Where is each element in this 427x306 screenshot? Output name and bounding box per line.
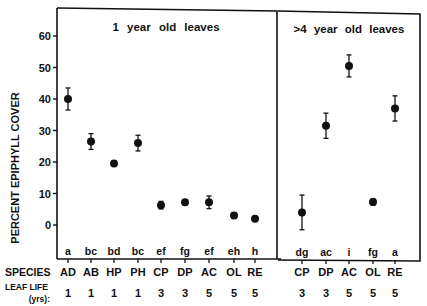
significance-letter: a (65, 245, 71, 257)
leaf-life-value: 5 (392, 287, 398, 299)
data-point (87, 134, 95, 150)
data-point (157, 201, 165, 209)
leaf-life-value: 3 (299, 287, 305, 299)
y-tick-label: 20 (39, 156, 51, 168)
leaf-life-value: 5 (252, 287, 258, 299)
significance-letter: fg (180, 245, 190, 257)
leaf-life-value: 3 (158, 287, 164, 299)
leaf-life-value: 5 (346, 287, 352, 299)
data-point (322, 113, 330, 138)
species-label: DP (318, 266, 333, 278)
data-point (251, 215, 259, 223)
species-label: RE (247, 266, 262, 278)
species-label: RE (387, 266, 402, 278)
leaf-life-value: 1 (111, 287, 117, 299)
species-label: OL (365, 266, 381, 278)
leaf-life-value: 1 (135, 287, 141, 299)
significance-letter: h (252, 245, 258, 257)
data-point (134, 135, 142, 151)
leaf-life-value: 3 (182, 287, 188, 299)
y-tick-label: 10 (39, 188, 51, 200)
significance-letter: bc (85, 245, 97, 257)
significance-letter: ac (320, 246, 332, 258)
significance-letter: bc (132, 245, 144, 257)
significance-letter: a (392, 246, 398, 258)
plot-frame (57, 8, 420, 261)
y-tick-label: 50 (39, 62, 51, 74)
leaf-life-value: 5 (231, 287, 237, 299)
right-panel-border (278, 11, 420, 261)
data-point (391, 96, 399, 121)
significance-letter: eh (228, 245, 240, 257)
panel-title-4-year: >4 year old leaves (294, 23, 405, 35)
species-label: DP (177, 266, 192, 278)
species-label: OL (226, 266, 242, 278)
y-tick-label: 60 (39, 30, 51, 42)
data-point (345, 55, 353, 77)
y-axis-label: PERCENT EPIPHYLL COVER (9, 92, 21, 243)
data-point (64, 88, 72, 110)
significance-letter: fg (368, 246, 378, 258)
species-label: HP (106, 266, 121, 278)
y-tick-label: 0 (45, 219, 51, 231)
leaf-life-units-label: (yrs): (29, 294, 50, 304)
significance-letter: bd (108, 245, 121, 257)
leaf-life-value: 3 (323, 287, 329, 299)
species-label: AB (83, 266, 99, 278)
y-tick-label: 30 (39, 125, 51, 137)
panel-title-1-year: 1 year old leaves (112, 21, 219, 33)
species-label: CP (153, 266, 168, 278)
significance-letter: ef (204, 245, 214, 257)
species-label: AC (201, 266, 217, 278)
significance-letter: dg (296, 246, 309, 258)
data-point (230, 212, 238, 220)
leaf-life-value: 1 (65, 287, 71, 299)
y-axis: 0102030405060 (39, 30, 57, 231)
category-labels: SPECIESLEAF LIFE(yrs):aAD1bcAB1bdHP1bcPH… (5, 245, 403, 304)
leaf-life-value: 5 (370, 287, 376, 299)
data-point (205, 196, 213, 209)
species-label: AC (341, 266, 357, 278)
leaf-life-value: 1 (88, 287, 94, 299)
species-label: AD (60, 266, 76, 278)
species-label: PH (130, 266, 145, 278)
species-label: CP (294, 266, 309, 278)
significance-letter: ef (156, 245, 166, 257)
data-point (369, 198, 377, 206)
data-point (298, 195, 306, 230)
significance-letter: i (348, 246, 351, 258)
leaf-life-value: 5 (206, 287, 212, 299)
data-point (181, 198, 189, 206)
data-points (64, 55, 399, 230)
leaf-life-row-label: LEAF LIFE (5, 282, 48, 292)
species-row-label: SPECIES (5, 266, 51, 278)
data-point (110, 160, 118, 168)
y-tick-label: 40 (39, 93, 51, 105)
epiphyll-cover-chart: 0102030405060 SPECIESLEAF LIFE(yrs):aAD1… (0, 0, 427, 306)
